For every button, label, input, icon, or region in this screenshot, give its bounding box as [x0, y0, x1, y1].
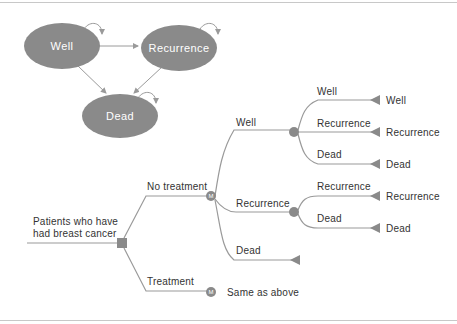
terminal-node-icon[interactable]	[370, 159, 380, 169]
terminal-node-icon[interactable]	[370, 223, 380, 233]
treatment-label: Treatment	[147, 276, 194, 287]
state-label: Dead	[106, 110, 134, 122]
outcome-branch-label: Recurrence	[317, 181, 371, 192]
branch-label-well: Well	[236, 117, 256, 128]
terminal-node-icon[interactable]	[370, 191, 380, 201]
terminal-label: Recurrence	[386, 191, 440, 202]
branch-well	[215, 130, 290, 196]
chance-node-recurrence-icon[interactable]	[289, 207, 299, 217]
svg-text:M: M	[209, 193, 214, 199]
terminal-node-icon[interactable]	[290, 255, 300, 265]
terminal-label: Recurrence	[386, 127, 440, 138]
terminal-label: Dead	[386, 223, 411, 234]
state-recurrence: Recurrence	[141, 25, 217, 71]
arrow-well-to-dead	[78, 66, 106, 93]
terminal-label: Dead	[386, 159, 411, 170]
same-as-above-label: Same as above	[227, 287, 299, 298]
arrow-recurrence-to-dead	[134, 67, 162, 93]
state-label: Well	[51, 40, 74, 52]
terminal-node-icon[interactable]	[370, 127, 380, 137]
outcome-branch-label: Dead	[317, 149, 342, 160]
state-label: Recurrence	[149, 42, 210, 54]
root-label-line1: Patients who have	[33, 216, 118, 227]
no-treatment-label: No treatment	[147, 181, 207, 192]
root-label-line2: had breast cancer	[33, 228, 117, 239]
markov-node-treatment[interactable]: M	[206, 287, 216, 297]
branch-no-treatment	[124, 196, 207, 238]
decision-node-icon[interactable]	[117, 238, 127, 248]
chance-node-well-icon[interactable]	[289, 127, 299, 137]
branch-label-dead: Dead	[236, 245, 261, 256]
markov-node-no-treatment[interactable]: M	[206, 191, 216, 201]
state-transition-diagram: Well Recurrence Dead	[24, 23, 218, 138]
outcome-branch-label: Well	[317, 86, 337, 97]
state-well: Well	[24, 23, 100, 69]
state-dead: Dead	[82, 94, 158, 138]
branch-recurrence-recurrence	[298, 196, 372, 210]
outcome-branch-label: Recurrence	[317, 118, 371, 129]
markov-diagram: Well Recurrence Dead	[0, 0, 457, 324]
terminal-label: Well	[386, 95, 406, 106]
terminal-node-icon[interactable]	[370, 95, 380, 105]
outcome-branch-label: Dead	[317, 213, 342, 224]
svg-text:M: M	[209, 289, 214, 295]
branch-label-recurrence: Recurrence	[236, 198, 290, 209]
